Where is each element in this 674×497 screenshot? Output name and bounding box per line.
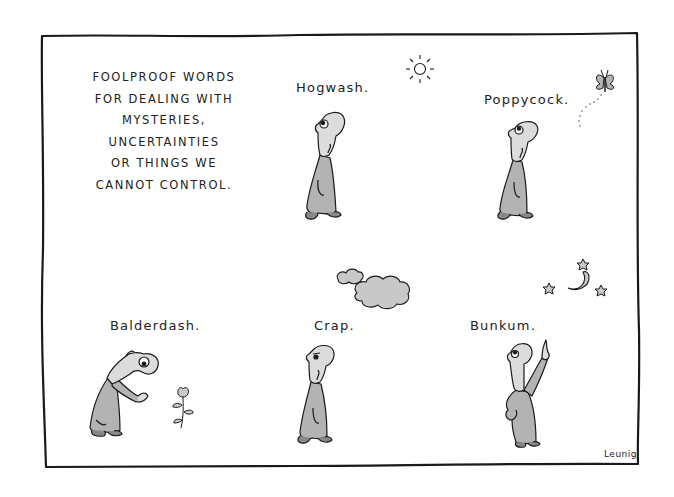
butterfly-trail <box>578 94 602 127</box>
cloud-icon <box>337 269 409 309</box>
man-figure-hogwash <box>306 113 345 220</box>
intro-line: FOOLPROOF WORDS <box>64 67 264 89</box>
flower-icon <box>173 388 193 428</box>
intro-caption: FOOLPROOF WORDS FOR DEALING WITH MYSTERI… <box>64 67 264 196</box>
word-hogwash: Hogwash. <box>296 80 369 95</box>
word-crap: Crap. <box>314 318 355 333</box>
star-icon <box>543 283 555 294</box>
intro-line: FOR DEALING WITH <box>64 89 264 111</box>
sun-icon <box>406 55 434 83</box>
man-figure-bunkum <box>506 340 549 447</box>
intro-line: OR THINGS WE <box>64 153 264 175</box>
intro-line: CANNOT CONTROL. <box>64 175 264 197</box>
word-poppycock: Poppycock. <box>484 92 569 107</box>
star-icon <box>577 259 589 270</box>
moon-icon <box>568 272 589 290</box>
word-balderdash: Balderdash. <box>110 318 200 333</box>
artist-signature: Leunig <box>604 449 637 459</box>
man-figure-crap <box>298 346 334 444</box>
man-figure-balderdash <box>90 351 158 436</box>
man-figure-poppycock <box>498 122 538 219</box>
star-icon <box>595 285 607 296</box>
intro-line: UNCERTAINTIES <box>64 132 264 154</box>
cartoon-panel: FOOLPROOF WORDS FOR DEALING WITH MYSTERI… <box>0 0 674 497</box>
word-bunkum: Bunkum. <box>470 318 536 333</box>
intro-line: MYSTERIES, <box>64 110 264 132</box>
butterfly-icon <box>596 70 613 92</box>
